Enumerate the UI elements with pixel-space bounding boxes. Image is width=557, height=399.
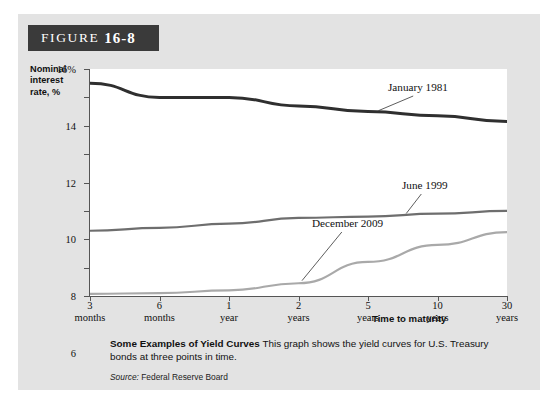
x-tick-label: 30years	[496, 300, 518, 324]
x-axis-title: Time to maturity	[372, 313, 446, 324]
y-tick-label: 10	[66, 234, 77, 245]
series-label-december-2009: December 2009	[312, 217, 383, 229]
y-tick-label: 16%	[57, 64, 76, 75]
leader-line	[378, 96, 413, 111]
source-label: Source:	[110, 372, 139, 382]
series-line	[90, 232, 507, 294]
figure-number: 16-8	[99, 30, 136, 47]
leader-line	[406, 194, 421, 213]
y-tick-label: 14	[66, 120, 77, 131]
x-tick-label: 1year	[220, 300, 238, 324]
x-tick-label: 2years	[287, 300, 309, 324]
leader-line	[302, 232, 342, 281]
x-tick-label: 3months	[75, 300, 106, 324]
figure-source: Source: Federal Reserve Board	[110, 372, 228, 382]
y-tick-label: 12	[66, 177, 77, 188]
series-label-june-1999: June 1999	[402, 179, 448, 191]
y-tick-label: 6	[71, 347, 76, 358]
figure-word: FIGURE	[28, 30, 99, 46]
source-text: Federal Reserve Board	[141, 372, 228, 382]
figure-number-badge: FIGURE 16-8	[28, 25, 159, 51]
series-label-january-1981: January 1981	[388, 81, 448, 93]
x-tick-label: 6months	[144, 300, 175, 324]
figure-caption: Some Examples of Yield Curves This graph…	[110, 337, 490, 363]
plot-area: 16%14121086420 3months6months1year2years…	[90, 69, 507, 296]
series-line	[90, 211, 507, 231]
caption-lede: Some Examples of Yield Curves	[110, 338, 260, 349]
